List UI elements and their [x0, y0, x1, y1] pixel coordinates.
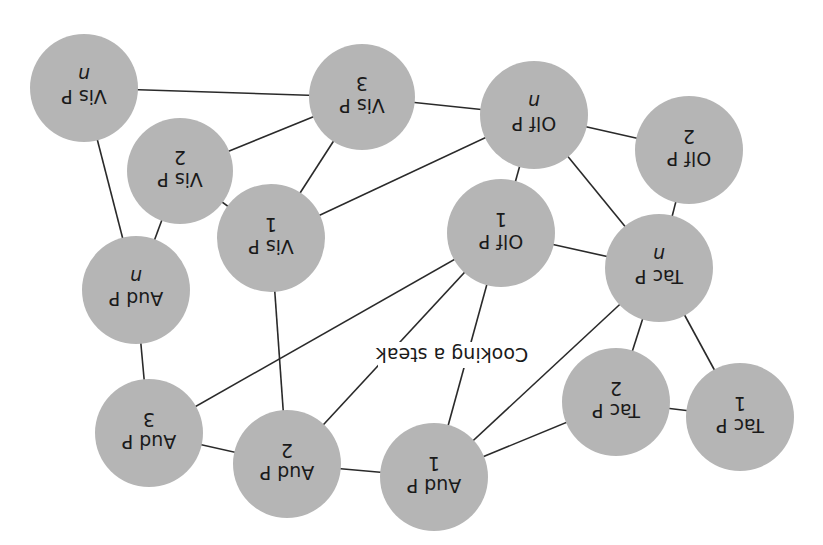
node-label-line1: Vis P — [248, 236, 293, 258]
node-label-line1: Tac P — [635, 266, 684, 288]
node-label-line1: Olf P — [667, 148, 711, 170]
node-label-line1: Tac P — [592, 400, 641, 422]
center-label-layer: Cooking a steak — [376, 342, 528, 368]
node-tac-p-n: Tac Pn — [605, 214, 713, 322]
node-tac-p-1: Tac P1 — [686, 363, 794, 471]
node-label-line2: 1 — [495, 209, 507, 231]
node-label-line1: Vis P — [339, 95, 384, 117]
node-label-line1: Olf P — [512, 113, 556, 135]
node-label-line2: n — [653, 244, 665, 266]
node-label-line2: 3 — [356, 73, 368, 95]
node-label-line2: 2 — [610, 378, 622, 400]
node-off-p-1: Olf P1 — [447, 179, 555, 287]
node-label-line1: Vis P — [61, 86, 106, 108]
node-label-line1: Aud P — [122, 431, 177, 453]
node-aud-p-1: Aud P1 — [380, 423, 488, 531]
node-aud-p-3: Aud P3 — [95, 379, 203, 487]
node-label-line1: Tac P — [716, 415, 765, 437]
node-vis-p-1: Vis P1 — [217, 184, 325, 292]
node-label-line2: n — [78, 64, 90, 86]
node-vis-p-n: Vis Pn — [30, 34, 138, 142]
node-label-line2: 3 — [143, 409, 155, 431]
sensory-network-diagram: Cooking a steak Vis PnVis P3Vis P2Vis P1… — [0, 0, 823, 545]
node-label-line1: Aud P — [407, 475, 462, 497]
node-aud-p-n: Aud Pn — [82, 236, 190, 344]
node-label-line1: Olf P — [479, 231, 523, 253]
node-aud-p-2: Aud P2 — [233, 410, 341, 518]
node-label-line2: n — [130, 266, 142, 288]
node-label-line2: 2 — [281, 440, 293, 462]
node-label-line2: 1 — [734, 393, 746, 415]
node-off-p-2: Olf P2 — [635, 96, 743, 204]
node-vis-p-3: Vis P3 — [309, 44, 415, 150]
node-off-p-n: Olf Pn — [480, 61, 588, 169]
node-label-line2: 2 — [174, 147, 186, 169]
node-label-line1: Aud P — [260, 462, 315, 484]
node-label-line2: 1 — [428, 453, 440, 475]
node-label-line2: 2 — [683, 126, 695, 148]
node-label-line2: 1 — [265, 214, 277, 236]
edge-aud-p-3-to-off-p-1 — [149, 233, 501, 433]
node-tac-p-2: Tac P2 — [562, 348, 670, 456]
node-vis-p-2: Vis P2 — [127, 118, 233, 224]
center-label: Cooking a steak — [376, 344, 528, 366]
node-label-line1: Aud P — [109, 288, 164, 310]
node-label-line1: Vis P — [157, 169, 202, 191]
node-label-line2: n — [528, 91, 540, 113]
nodes-layer: Vis PnVis P3Vis P2Vis P1Aud PnOlf PnOlf … — [30, 34, 794, 531]
